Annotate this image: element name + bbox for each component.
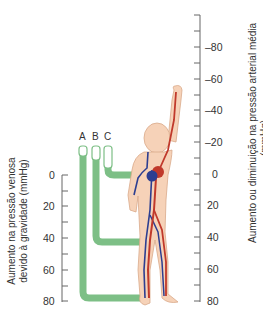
right-tick-neg80: –80	[205, 41, 223, 53]
right-axis-title-line1: Aumento ou diminuição na pressão arteria…	[247, 33, 259, 243]
right-tick-80: 80	[207, 295, 219, 307]
left-tick-80: 80	[43, 295, 55, 307]
left-tick-60: 60	[43, 264, 55, 276]
left-axis	[62, 175, 68, 302]
right-tick-0: 0	[212, 168, 218, 180]
right-axis-title-line2: (mmHg)	[259, 33, 263, 243]
right-tick-20: 20	[207, 199, 219, 211]
right-tick-40: 40	[207, 231, 219, 243]
right-axis	[194, 15, 200, 302]
tube-label-b: B	[92, 131, 99, 142]
human-figure	[128, 86, 182, 306]
right-tick-neg20: –20	[205, 136, 223, 148]
left-axis-title-line2: devido à gravidade (mmHg)	[18, 156, 30, 286]
right-axis-title: Aumento ou diminuição na pressão arteria…	[247, 33, 263, 243]
right-tick-neg40: –40	[205, 104, 223, 116]
diagram-graphic	[0, 0, 263, 319]
tube-label-a: A	[79, 131, 86, 142]
left-axis-title-line1: Aumento na pressão venosa	[6, 156, 18, 286]
right-tick-neg60: –60	[205, 73, 223, 85]
right-tick-60: 60	[207, 263, 219, 275]
left-axis-title: Aumento na pressão venosa devido à gravi…	[6, 156, 32, 286]
tube-label-c: C	[104, 131, 111, 142]
left-tick-20: 20	[43, 200, 55, 212]
left-tick-0: 0	[49, 169, 55, 181]
left-tick-40: 40	[43, 232, 55, 244]
